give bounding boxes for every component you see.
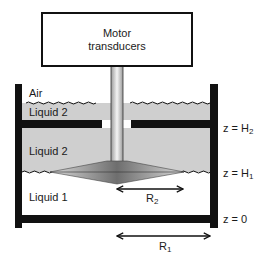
- r1-label: R1: [159, 240, 171, 256]
- motor-transducers-label: Motor transducers: [42, 27, 192, 53]
- liquid2-middle-label: Liquid 2: [29, 145, 68, 157]
- left-wall: [15, 84, 22, 228]
- level-zero-label: z = 0: [223, 213, 247, 229]
- right-wall: [210, 84, 218, 228]
- level-h1-label: z = H1: [223, 167, 253, 183]
- r2-label: R2: [146, 192, 158, 208]
- air-label: Air: [29, 87, 42, 99]
- top-plate-left: [22, 120, 102, 128]
- liquid1-label: Liquid 1: [29, 191, 68, 203]
- shaft: [111, 66, 123, 162]
- liquid2-upper-label: Liquid 2: [29, 106, 68, 118]
- bottom-plate: [15, 215, 218, 223]
- top-plate-right: [131, 120, 210, 128]
- level-h2-label: z = H2: [223, 122, 253, 138]
